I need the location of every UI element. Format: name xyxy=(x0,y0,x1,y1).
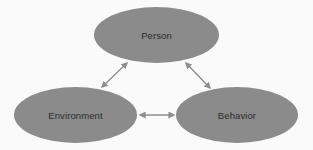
arrow-person-environment xyxy=(102,63,127,87)
node-behavior: Behavior xyxy=(176,87,298,143)
node-environment-label: Environment xyxy=(48,110,102,121)
node-behavior-label: Behavior xyxy=(218,110,256,121)
node-person-label: Person xyxy=(141,30,172,41)
node-person: Person xyxy=(94,7,219,63)
arrow-person-behavior xyxy=(186,63,210,88)
diagram-canvas: Person Environment Behavior xyxy=(0,0,313,150)
node-environment: Environment xyxy=(14,87,137,143)
